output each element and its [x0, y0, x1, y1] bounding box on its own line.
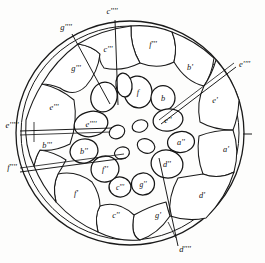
label-e1: e': [212, 96, 218, 105]
outer-ring-cells: [26, 26, 239, 241]
label-g2: g'': [139, 180, 146, 189]
label-d1: d': [199, 191, 205, 200]
label-d4: d'''': [179, 244, 191, 254]
label-e2: e'': [164, 116, 172, 125]
label-b3: b''': [42, 141, 52, 150]
label-g4: g'''': [60, 22, 72, 32]
label-f4: f'''': [7, 162, 17, 172]
label-f3: f''': [149, 40, 157, 49]
cell-center-1: [131, 118, 150, 134]
label-e5: e''''': [5, 120, 18, 130]
label-b0: b: [161, 94, 165, 103]
label-f2: f'': [102, 165, 108, 174]
label-a2: a'': [177, 138, 185, 147]
cross-section-diagram: c'''' g'''' e'''' e''''' f'''' d'''' c''…: [0, 0, 265, 263]
label-b1: b': [187, 63, 193, 72]
central-cells: [107, 118, 157, 161]
label-d2: d'': [163, 160, 171, 169]
label-g3: g''': [71, 64, 81, 73]
label-e4: e'''': [239, 59, 250, 69]
label-c3b: c''': [116, 183, 125, 192]
label-e1b: e''': [49, 103, 58, 112]
label-b2: b'': [80, 147, 88, 156]
cell-c2: [96, 204, 140, 240]
cell-center-3: [107, 123, 127, 142]
cell-a1: [198, 130, 237, 177]
label-a1: a': [223, 145, 229, 154]
label-e3: e'''': [86, 120, 97, 129]
figure-container: c'''' g'''' e'''' e''''' f'''' d'''' c''…: [0, 0, 265, 263]
label-f1: f': [74, 189, 78, 198]
label-g1: g': [155, 211, 161, 220]
label-c2: c'': [112, 211, 120, 220]
label-c3: c''': [103, 45, 112, 54]
cell-center-2: [135, 136, 157, 156]
label-c4: c'''': [106, 6, 117, 16]
